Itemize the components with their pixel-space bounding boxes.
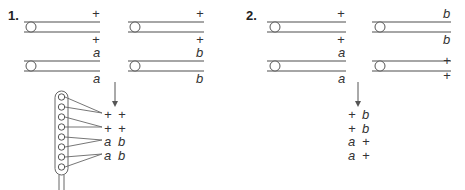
centromere-icon: [26, 22, 36, 32]
centromere-icon: [130, 61, 140, 71]
result-cell: a: [348, 148, 355, 163]
centromere-icon: [375, 61, 385, 71]
down-arrow-icon: [355, 82, 361, 107]
result-cell: +: [362, 134, 370, 149]
down-arrow-icon: [112, 82, 118, 107]
panel-2: 2. + + b b a a + +: [246, 6, 451, 163]
result-cell: a: [348, 134, 355, 149]
centromere-icon: [270, 22, 280, 32]
chromosome-pair: a a: [24, 45, 100, 86]
centromere-icon: [26, 61, 36, 71]
allele-label-top: a: [338, 45, 345, 60]
result-cell: +: [362, 148, 370, 163]
result-cell: a: [104, 134, 111, 149]
result-cell: a: [104, 148, 111, 163]
chromosome-pair: + +: [128, 6, 204, 47]
result-cell: b: [118, 134, 125, 149]
result-table: + b + b a + a +: [348, 107, 370, 163]
chromosome-pair: a a: [267, 45, 346, 86]
result-cell: +: [348, 107, 356, 122]
result-cell: +: [104, 107, 112, 122]
diagram-canvas: 1. + + + + a a b: [0, 0, 465, 190]
allele-label-bottom: b: [196, 71, 203, 86]
allele-label-top: a: [93, 45, 100, 60]
allele-label-top: b: [196, 45, 203, 60]
allele-label-bottom: a: [338, 71, 345, 86]
result-cell: b: [118, 148, 125, 163]
panel-number: 1.: [8, 8, 19, 23]
allele-label-top: +: [337, 6, 345, 21]
centromere-icon: [270, 61, 280, 71]
chromosome-pair: b b: [372, 6, 451, 47]
allele-label-top: +: [443, 53, 451, 68]
ascus-comb-icon: [55, 91, 102, 190]
chromosome-pair: + +: [267, 6, 346, 47]
result-table: + + + + a b a b: [104, 107, 126, 163]
panel-1: 1. + + + + a a b: [8, 6, 204, 190]
chromosome-pair: + +: [24, 6, 100, 47]
centromere-icon: [375, 22, 385, 32]
panel-number: 2.: [246, 8, 257, 23]
allele-label-top: b: [443, 6, 450, 21]
result-cell: +: [118, 107, 126, 122]
centromere-icon: [130, 22, 140, 32]
allele-label-bottom: a: [93, 71, 100, 86]
allele-label-bottom: b: [443, 32, 450, 47]
chromosome-pair: b b: [128, 45, 204, 86]
result-cell: b: [362, 107, 369, 122]
chromosome-pair: + +: [372, 53, 451, 83]
allele-label-top: +: [196, 6, 204, 21]
allele-label-top: +: [92, 6, 100, 21]
allele-label-bottom: +: [443, 68, 451, 83]
